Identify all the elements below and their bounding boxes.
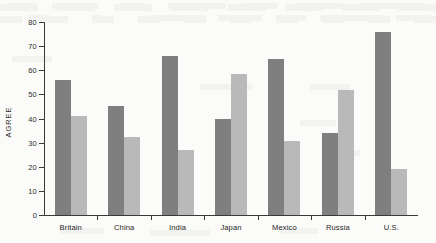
bar <box>215 119 231 216</box>
bar <box>162 56 178 215</box>
bar <box>268 59 284 215</box>
x-tick-mark <box>97 215 98 220</box>
plot-area: 01020304050607080 BritainChinaIndiaJapan… <box>44 22 418 216</box>
y-tick-label: 60 <box>28 66 37 75</box>
bar <box>338 90 354 215</box>
bar-group <box>215 23 247 215</box>
y-tick-mark <box>39 94 44 95</box>
category-label: India <box>169 223 186 232</box>
bar <box>375 32 391 215</box>
y-tick-mark <box>39 191 44 192</box>
y-tick-label: 10 <box>28 186 37 195</box>
category-label: U.S. <box>384 223 399 232</box>
category-label: China <box>114 223 134 232</box>
y-tick-mark <box>39 143 44 144</box>
y-tick-mark <box>39 46 44 47</box>
bar <box>391 169 407 215</box>
y-tick-mark <box>39 215 44 216</box>
bar-group <box>55 23 87 215</box>
x-tick-mark <box>258 215 259 220</box>
bar <box>178 150 194 215</box>
x-tick-mark <box>204 215 205 220</box>
bar-group <box>268 23 300 215</box>
y-tick-label: 20 <box>28 162 37 171</box>
y-tick-mark <box>39 22 44 23</box>
y-tick-label: 80 <box>28 18 37 27</box>
bar-group <box>108 23 140 215</box>
x-axis-line <box>44 215 418 216</box>
bar-group <box>375 23 407 215</box>
y-tick-label: 40 <box>28 114 37 123</box>
x-tick-mark <box>151 215 152 220</box>
bar-group <box>322 23 354 215</box>
y-tick-mark <box>39 167 44 168</box>
bar <box>284 141 300 215</box>
category-label: Britain <box>60 223 82 232</box>
bar <box>55 80 71 215</box>
y-tick-label: 70 <box>28 42 37 51</box>
bar <box>322 133 338 215</box>
bar <box>108 106 124 215</box>
y-tick-label: 50 <box>28 90 37 99</box>
category-label: Japan <box>220 223 241 232</box>
x-tick-mark <box>311 215 312 220</box>
y-tick-label: 0 <box>33 211 37 220</box>
bar <box>231 74 247 215</box>
bar <box>71 116 87 215</box>
bar <box>124 137 140 215</box>
category-label: Russia <box>326 223 350 232</box>
y-tick-label: 30 <box>28 138 37 147</box>
y-tick-mark <box>39 119 44 120</box>
bar-group <box>162 23 194 215</box>
y-axis-line <box>44 22 45 216</box>
bar-chart: 01020304050607080 BritainChinaIndiaJapan… <box>0 0 436 243</box>
y-axis-title: AGREE <box>4 106 13 137</box>
category-label: Mexico <box>272 223 297 232</box>
y-tick-mark <box>39 70 44 71</box>
x-tick-mark <box>365 215 366 220</box>
